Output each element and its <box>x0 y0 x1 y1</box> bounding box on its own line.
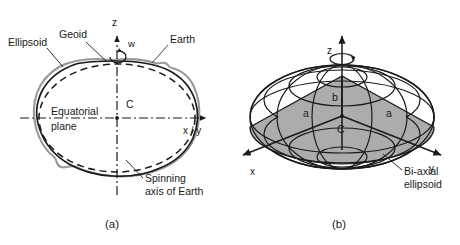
figure-root: Ellipsoid Geoid Earth Equatorial plane S… <box>0 0 460 245</box>
label-equatorial-plane-line2: plane <box>51 120 77 132</box>
panel-a: Ellipsoid Geoid Earth Equatorial plane S… <box>8 17 206 230</box>
axis-label-z-b: z <box>327 45 332 56</box>
omega-label-a: w <box>127 38 135 49</box>
label-geoid: Geoid <box>59 28 87 40</box>
leader-earth <box>152 45 168 63</box>
label-equatorial-plane-line1: Equatorial <box>51 105 98 117</box>
leader-ellipsoid <box>47 48 63 67</box>
earth-geoid-ellipsoid-diagram: Ellipsoid Geoid Earth Equatorial plane S… <box>0 0 460 245</box>
label-bi-axial-line1: Bi-axial <box>404 165 438 177</box>
axis-label-x-b: x <box>250 166 255 177</box>
label-semi-minor-axis-b: b <box>332 91 338 103</box>
center-label-c-a: C <box>126 98 134 110</box>
label-semi-major-axis-right: a <box>386 107 392 119</box>
center-point-a <box>115 116 119 120</box>
center-point-b <box>340 114 344 118</box>
panel-b: z x y b a a C Bi-axial ellipsoid (b) <box>243 36 442 230</box>
label-earth: Earth <box>170 33 195 45</box>
label-semi-major-axis-left: a <box>303 107 309 119</box>
label-spinning-axis-line1: Spinning <box>145 172 186 184</box>
axis-label-xy-a: x / y <box>183 125 201 136</box>
axis-label-z-a: z <box>112 17 117 28</box>
label-bi-axial-line2: ellipsoid <box>404 178 442 190</box>
center-label-c-b: C <box>337 123 345 135</box>
label-ellipsoid: Ellipsoid <box>8 36 47 48</box>
caption-panel-a: (a) <box>105 218 119 230</box>
caption-panel-b: (b) <box>332 218 346 230</box>
label-spinning-axis-line2: axis of Earth <box>145 185 204 197</box>
